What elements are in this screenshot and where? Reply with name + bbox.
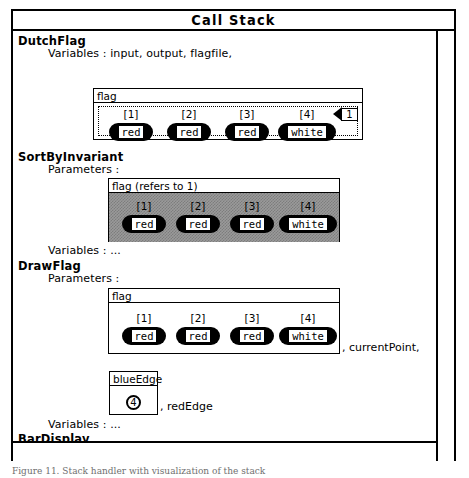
call-stack-content: DutchFlag Variables : input, output, fla… xyxy=(13,31,437,461)
array-cell[interactable]: [4] white xyxy=(278,108,336,141)
pointer-id-label: 1 xyxy=(341,108,358,121)
frame-name-dutchflag: DutchFlag xyxy=(18,33,86,48)
array-cell-pill: white xyxy=(279,327,337,345)
array-cell-index: [2] xyxy=(171,312,225,324)
array-cell-value: red xyxy=(131,217,158,231)
variable-box-header: flag xyxy=(94,89,362,103)
array-cell-index: [3] xyxy=(225,312,279,324)
array-cell-value: red xyxy=(118,125,145,139)
array-cell[interactable]: [4] white xyxy=(279,200,337,233)
variable-box-header: flag (refers to 1) xyxy=(109,179,339,193)
array-cell-index: [1] xyxy=(104,108,158,120)
array-cell-pill: red xyxy=(167,123,212,141)
array-cell[interactable]: [2] red xyxy=(171,312,225,345)
drawflag-trailing-params: , currentPoint, xyxy=(342,341,419,354)
array-cell-index: [3] xyxy=(220,108,274,120)
array-cell[interactable]: [3] red xyxy=(225,200,279,233)
window-body: DutchFlag Variables : input, output, fla… xyxy=(13,31,454,461)
variable-box-flag-dutchflag[interactable]: flag [1] red [2] red xyxy=(93,88,363,140)
blueedge-trailing-params: , redEdge xyxy=(160,400,213,413)
array-cell-value: red xyxy=(176,125,203,139)
variable-box-flag-sortbyinvariant[interactable]: flag (refers to 1) [1] red [2] red xyxy=(108,178,340,242)
array-cell-pill: red xyxy=(122,327,167,345)
frame-parameters-sortbyinvariant: Parameters : xyxy=(48,163,119,176)
page-title: Call Stack xyxy=(191,12,275,28)
array-cell-index: [3] xyxy=(225,200,279,212)
array-cell-value: white xyxy=(288,217,328,231)
array-cell[interactable]: [1] red xyxy=(117,312,171,345)
variable-box-body: [1] red [2] red [3] xyxy=(109,193,339,242)
call-stack-window: Call Stack DutchFlag Variables : input, … xyxy=(11,9,456,461)
array-cell-value: red xyxy=(185,329,212,343)
array-cell-pill: red xyxy=(109,123,154,141)
variable-box-header: blueEdge xyxy=(110,372,157,386)
array-cell-value: red xyxy=(185,217,212,231)
figure-caption: Figure 11. Stack handler with visualizat… xyxy=(12,466,462,476)
frame-name-bardisplay: BarDisplay xyxy=(18,431,90,441)
array-cell-pill: white xyxy=(279,215,337,233)
variable-box-body: [1] red [2] red [3] xyxy=(94,103,362,140)
array-cell-pill: white xyxy=(278,123,336,141)
array-cell-value: red xyxy=(239,217,266,231)
array-cell[interactable]: [1] red xyxy=(104,108,158,141)
frame-name-drawflag: DrawFlag xyxy=(18,258,81,273)
array-cell-index: [4] xyxy=(279,200,337,212)
array-cell[interactable]: [1] red xyxy=(117,200,171,233)
frame-variables-drawflag: Variables : ... xyxy=(48,418,121,431)
frame-name-sortbyinvariant: SortByInvariant xyxy=(18,149,123,164)
variable-box-body: 4 xyxy=(110,386,157,415)
variable-box-body: [1] red [2] red [3] xyxy=(109,303,339,354)
array-cell[interactable]: [3] red xyxy=(225,312,279,345)
variable-box-blueedge[interactable]: blueEdge 4 xyxy=(109,371,158,415)
array-cell-value: red xyxy=(234,125,261,139)
array-cell-value: red xyxy=(239,329,266,343)
frame-parameters-drawflag: Parameters : xyxy=(48,272,119,285)
frame-variables-sortbyinvariant: Variables : ... xyxy=(48,244,121,257)
array-cell-index: [1] xyxy=(117,312,171,324)
scalar-value-wrap: 4 xyxy=(110,391,157,410)
array-cell[interactable]: [2] red xyxy=(162,108,216,141)
array-cell-pill: red xyxy=(176,327,221,345)
array-cell-pill: red xyxy=(225,123,270,141)
array-cell[interactable]: [3] red xyxy=(220,108,274,141)
array-cell[interactable]: [4] white xyxy=(279,312,337,345)
reference-pointer[interactable]: 1 xyxy=(333,107,358,121)
array-cell-value: white xyxy=(287,125,327,139)
frame-variables-dutchflag: Variables : input, output, flagfile, xyxy=(48,47,232,60)
array-cell-index: [1] xyxy=(117,200,171,212)
array-cell-value: red xyxy=(131,329,158,343)
window-titlebar: Call Stack xyxy=(13,11,454,31)
variable-box-header: flag xyxy=(109,289,339,303)
array-cell-index: [4] xyxy=(278,108,336,120)
horizontal-scrollbar[interactable] xyxy=(13,441,436,461)
vertical-scrollbar[interactable] xyxy=(437,31,454,461)
array-cell-index: [2] xyxy=(171,200,225,212)
array-cell-pill: red xyxy=(122,215,167,233)
array-cell-pill: red xyxy=(230,215,275,233)
variable-box-flag-drawflag[interactable]: flag [1] red [2] red xyxy=(108,288,340,354)
array-cell-index: [4] xyxy=(279,312,337,324)
call-stack-scrollpane: DutchFlag Variables : input, output, fla… xyxy=(13,31,436,441)
array-cell-pill: red xyxy=(176,215,221,233)
scalar-value: 4 xyxy=(126,395,141,410)
array-cell-value: white xyxy=(288,329,328,343)
array-cell[interactable]: [2] red xyxy=(171,200,225,233)
array-cell-index: [2] xyxy=(162,108,216,120)
array-cell-pill: red xyxy=(230,327,275,345)
